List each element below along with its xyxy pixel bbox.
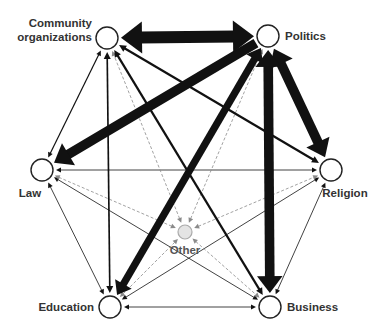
edge-community-politics — [121, 20, 254, 53]
edge-line — [114, 55, 180, 218]
edge-line — [59, 177, 172, 226]
label-line: Law — [19, 187, 41, 199]
edge-line — [58, 180, 254, 298]
node-other — [178, 225, 192, 239]
node-label-law: Law — [19, 187, 41, 199]
node-label-business: Business — [287, 301, 338, 313]
label-line: Business — [287, 301, 338, 313]
arrowhead — [124, 305, 129, 310]
edge-other-religion — [194, 175, 318, 228]
edge-politics-business — [255, 50, 282, 293]
node-label-other: Other — [170, 244, 201, 256]
node-business — [259, 296, 281, 318]
edge-line — [280, 62, 318, 143]
label-line: Education — [38, 301, 94, 313]
node-label-religion: Religion — [322, 187, 367, 199]
node-law — [31, 159, 53, 181]
edge-law-education — [48, 183, 104, 295]
label-line: organizations — [17, 31, 92, 43]
edge-line — [268, 65, 270, 278]
edge-community-education — [104, 52, 114, 293]
edge-line — [140, 36, 235, 37]
edge-other-business — [192, 239, 259, 298]
edge-business-education — [124, 305, 256, 310]
label-line: Community — [29, 17, 93, 29]
arrowhead — [104, 52, 111, 59]
arrowhead — [106, 286, 113, 293]
label-line: Religion — [322, 187, 367, 199]
node-politics — [257, 25, 279, 47]
label-line: Other — [170, 244, 201, 256]
edge-line — [126, 180, 316, 298]
node-label-community: Communityorganizations — [17, 17, 92, 43]
edge-line — [107, 58, 110, 286]
arrowhead — [56, 168, 61, 173]
network-diagram: CommunityorganizationsPoliticsLawReligio… — [0, 0, 385, 335]
node-religion — [320, 159, 342, 181]
label-line: Politics — [285, 30, 326, 42]
node-education — [99, 296, 121, 318]
node-label-education: Education — [38, 301, 94, 313]
arrowhead — [312, 168, 317, 173]
node-label-politics: Politics — [285, 30, 326, 42]
edges-layer — [48, 20, 329, 309]
node-community — [96, 27, 118, 49]
arrowhead — [251, 305, 256, 310]
edge-line — [50, 187, 102, 291]
edge-line — [278, 187, 324, 290]
